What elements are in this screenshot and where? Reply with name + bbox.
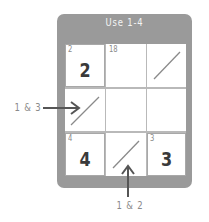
bottom-callout-label: 1 & 2 bbox=[116, 200, 143, 211]
cell-r1-c2[interactable] bbox=[147, 89, 186, 131]
cell-r0-c0[interactable]: 2 2 bbox=[65, 44, 105, 87]
cage-label: 4 bbox=[68, 134, 72, 143]
cell-r0-c1[interactable]: 18 bbox=[106, 44, 146, 87]
cell-r1-c1[interactable] bbox=[106, 89, 146, 131]
cell-value: 2 bbox=[69, 58, 101, 82]
cage-label: 3 bbox=[150, 134, 154, 143]
cell-value: 4 bbox=[69, 147, 101, 171]
cell-r0-c2[interactable] bbox=[147, 44, 186, 87]
cell-r2-c0[interactable]: 4 4 bbox=[65, 133, 105, 176]
slash-mark-icon bbox=[147, 44, 186, 87]
puzzle-title: Use 1-4 bbox=[67, 16, 182, 29]
up-arrow-icon bbox=[120, 164, 136, 198]
right-arrow-icon bbox=[42, 100, 82, 116]
cage-label: 2 bbox=[68, 45, 72, 54]
cell-r2-c2[interactable]: 3 3 bbox=[147, 133, 186, 176]
cell-value: 3 bbox=[151, 147, 182, 171]
puzzle-grid: 2 2 18 4 4 3 3 bbox=[65, 44, 186, 176]
cage-label: 18 bbox=[109, 45, 118, 54]
left-callout-label: 1 & 3 bbox=[14, 102, 41, 113]
